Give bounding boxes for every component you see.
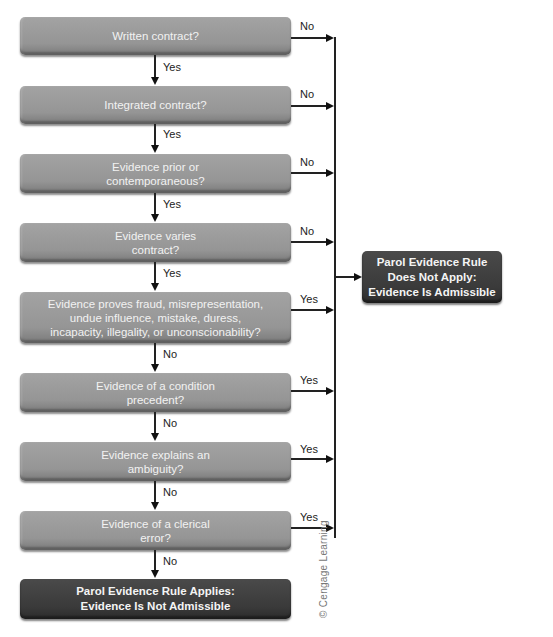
node-text: contract? [132,243,179,257]
edge-label: No [300,88,314,100]
node-text: precedent? [127,393,185,407]
outcome-rule-not-apply: Parol Evidence Rule Does Not Apply: Evid… [362,251,502,303]
connector-down [154,550,156,571]
outcome-text: Parol Evidence Rule [377,255,488,270]
edge-label: No [163,555,177,567]
outcome-text: Evidence Is Not Admissible [81,599,231,614]
arrow-right-icon [326,387,334,395]
node-explains-ambiguity: Evidence explains an ambiguity? [20,442,291,481]
bus-line [334,37,336,538]
connector-right [291,241,327,243]
node-text: Evidence explains an [101,448,210,462]
outcome-rule-applies: Parol Evidence Rule Applies: Evidence Is… [20,579,291,619]
copyright-credit: © Cengage Learning [318,520,329,618]
edge-label: Yes [163,128,181,140]
outcome-text: Evidence Is Admissible [368,285,495,300]
edge-label: Yes [163,61,181,73]
node-fraud-etc: Evidence proves fraud, misrepresentation… [20,292,291,343]
node-text: undue influence, mistake, duress, [70,311,241,325]
connector-down [154,343,156,365]
arrow-down-icon [151,214,159,222]
connector-right [291,309,327,311]
node-text: Evidence varies [115,229,196,243]
node-text: incapacity, illegality, or unconscionabi… [50,325,261,339]
arrow-down-icon [151,364,159,372]
arrow-down-icon [151,283,159,291]
connector-down [154,481,156,503]
edge-label: Yes [300,511,318,523]
node-text: Integrated contract? [104,98,206,112]
connector-right [291,105,327,107]
connector-down [154,193,156,215]
node-text: ambiguity? [128,462,184,476]
arrow-down-icon [151,570,159,578]
arrow-right-icon [326,238,334,246]
edge-label: Yes [300,293,318,305]
outcome-text: Does Not Apply: [387,270,476,285]
arrow-down-icon [151,145,159,153]
outcome-text: Parol Evidence Rule Applies: [76,584,235,599]
edge-label: Yes [163,267,181,279]
arrow-right-icon [326,306,334,314]
arrow-down-icon [151,502,159,510]
connector-down [154,262,156,284]
connector-down [154,412,156,434]
node-varies-contract: Evidence varies contract? [20,223,291,262]
arrow-right-icon [326,169,334,177]
edge-label: Yes [300,374,318,386]
connector-to-outcome [335,276,355,278]
node-prior-or-contemporaneous: Evidence prior or contemporaneous? [20,154,291,193]
edge-label: No [163,486,177,498]
connector-right [291,172,327,174]
node-text: Evidence of a clerical [101,517,210,531]
node-clerical-error: Evidence of a clerical error? [20,511,291,550]
node-text: error? [140,531,171,545]
edge-label: Yes [163,198,181,210]
connector-right [291,458,327,460]
node-integrated-contract: Integrated contract? [20,86,291,124]
arrow-down-icon [151,433,159,441]
edge-label: No [163,417,177,429]
node-text: Written contract? [112,29,199,43]
edge-label: No [300,20,314,32]
connector-down [154,124,156,146]
connector-right [291,37,327,39]
node-text: Evidence of a condition [96,379,215,393]
arrow-down-icon [151,77,159,85]
edge-label: No [300,156,314,168]
node-text: Evidence proves fraud, misrepresentation… [48,297,263,311]
node-written-contract: Written contract? [20,17,291,55]
arrow-right-icon [326,102,334,110]
connector-down [154,55,156,78]
connector-right [291,390,327,392]
node-text: contemporaneous? [106,174,204,188]
arrow-right-icon [354,273,362,281]
node-text: Evidence prior or [112,160,199,174]
arrow-right-icon [326,34,334,42]
edge-label: No [163,348,177,360]
edge-label: Yes [300,443,318,455]
edge-label: No [300,225,314,237]
arrow-right-icon [326,455,334,463]
node-condition-precedent: Evidence of a condition precedent? [20,373,291,412]
